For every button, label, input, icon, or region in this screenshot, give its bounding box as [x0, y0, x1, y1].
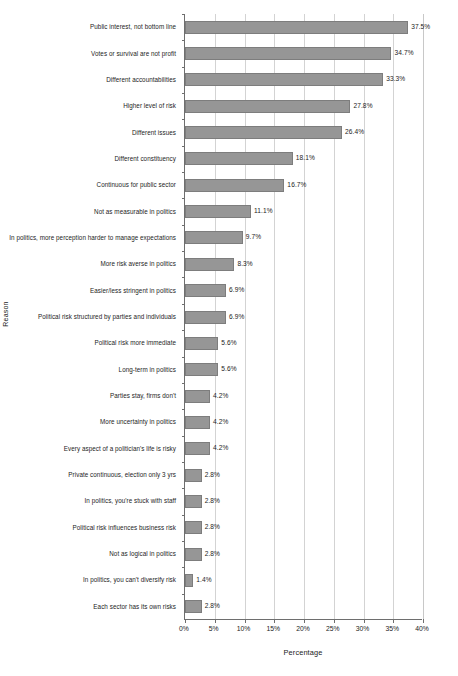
- x-axis-tick-mark: [245, 619, 246, 623]
- bar: [185, 390, 210, 403]
- category-label: Higher level of risk: [0, 102, 176, 110]
- bar: [185, 258, 234, 271]
- bar: [185, 416, 210, 429]
- bar: [185, 152, 293, 165]
- bar-value-label: 34.7%: [394, 49, 413, 57]
- category-label: Votes or survival are not profit: [0, 50, 176, 58]
- category-label: Not as logical in politics: [0, 550, 176, 558]
- y-axis-tick-mark: [182, 93, 185, 94]
- x-axis-tick-mark: [423, 619, 424, 623]
- bar-value-label: 2.8%: [205, 523, 220, 531]
- category-label: Public interest, not bottom line: [0, 23, 176, 31]
- bar-value-label: 6.9%: [229, 313, 244, 321]
- chart-title: [140, 0, 340, 9]
- category-label: In politics, you can't diversify risk: [0, 576, 176, 584]
- gridline: [423, 14, 424, 619]
- plot-area: 37.5%34.7%33.3%27.8%26.4%18.1%16.7%11.1%…: [184, 14, 422, 620]
- bar: [185, 205, 251, 218]
- category-label: More uncertainty in politics: [0, 418, 176, 426]
- bar: [185, 363, 218, 376]
- category-label: Long-term in politics: [0, 366, 176, 374]
- category-label: Each sector has its own risks: [0, 603, 176, 611]
- y-axis-tick-mark: [182, 172, 185, 173]
- bar: [185, 21, 408, 34]
- category-label: Easier/less stringent in politics: [0, 287, 176, 295]
- y-axis-tick-mark: [182, 462, 185, 463]
- y-axis-tick-mark: [182, 67, 185, 68]
- x-axis-tick-mark: [393, 619, 394, 623]
- x-axis-tick-mark: [304, 619, 305, 623]
- category-label: More risk averse in politics: [0, 260, 176, 268]
- bar: [185, 574, 193, 587]
- bar: [185, 284, 226, 297]
- category-label: Different accountabilities: [0, 76, 176, 84]
- bar-value-label: 1.4%: [196, 576, 211, 584]
- y-axis-tick-mark: [182, 515, 185, 516]
- bar: [185, 179, 284, 192]
- bar: [185, 600, 202, 613]
- category-label: Not as measurable in politics: [0, 208, 176, 216]
- category-label: In politics, more perception harder to m…: [0, 234, 176, 242]
- bar: [185, 469, 202, 482]
- bar-value-label: 9.7%: [246, 233, 261, 241]
- y-axis-tick-mark: [182, 14, 185, 15]
- bar-value-label: 16.7%: [287, 181, 306, 189]
- y-axis-tick-mark: [182, 383, 185, 384]
- y-axis-tick-mark: [182, 40, 185, 41]
- bar-chart: Reason Public interest, not bottom lineV…: [0, 0, 458, 676]
- category-label: Private continuous, election only 3 yrs: [0, 471, 176, 479]
- bar-value-label: 6.9%: [229, 286, 244, 294]
- x-axis-title: Percentage: [184, 648, 422, 657]
- y-axis-tick-mark: [182, 198, 185, 199]
- bar: [185, 47, 391, 60]
- x-axis-tick-mark: [185, 619, 186, 623]
- x-axis-tick-mark: [334, 619, 335, 623]
- category-label: Political risk structured by parties and…: [0, 313, 176, 321]
- y-axis-tick-mark: [182, 541, 185, 542]
- x-axis-tick-labels: 0%5%10%15%20%25%30%35%40%: [184, 625, 422, 637]
- bar-value-label: 8.3%: [237, 260, 252, 268]
- bar-value-label: 2.8%: [205, 471, 220, 479]
- x-axis-tick-mark: [215, 619, 216, 623]
- bar-value-label: 2.8%: [205, 497, 220, 505]
- y-axis-tick-mark: [182, 594, 185, 595]
- y-axis-tick-mark: [182, 225, 185, 226]
- category-label: Continuous for public sector: [0, 181, 176, 189]
- category-label-column: Public interest, not bottom lineVotes or…: [0, 14, 180, 620]
- bar-value-label: 2.8%: [205, 550, 220, 558]
- y-axis-tick-mark: [182, 304, 185, 305]
- category-label: Every aspect of a politician's life is r…: [0, 445, 176, 453]
- bar-value-label: 33.3%: [386, 75, 405, 83]
- y-axis-tick-mark: [182, 357, 185, 358]
- bar-value-label: 27.8%: [353, 102, 372, 110]
- bar: [185, 231, 243, 244]
- bar-value-label: 11.1%: [254, 207, 273, 215]
- x-axis-tick-mark: [364, 619, 365, 623]
- bar: [185, 337, 218, 350]
- x-axis-tick-mark: [274, 619, 275, 623]
- x-axis-tick-label: 40%: [402, 625, 442, 632]
- y-axis-tick-mark: [182, 567, 185, 568]
- bar: [185, 100, 350, 113]
- gridline: [393, 14, 394, 619]
- bar-value-label: 5.6%: [221, 365, 236, 373]
- y-axis-tick-mark: [182, 251, 185, 252]
- bar-value-label: 37.5%: [411, 23, 430, 31]
- bar-value-label: 4.2%: [213, 392, 228, 400]
- y-axis-tick-mark: [182, 409, 185, 410]
- category-label: Different constituency: [0, 155, 176, 163]
- bar-value-label: 18.1%: [296, 154, 315, 162]
- bar: [185, 548, 202, 561]
- category-label: Political risk more immediate: [0, 339, 176, 347]
- bar: [185, 126, 342, 139]
- y-axis-tick-mark: [182, 330, 185, 331]
- bar: [185, 311, 226, 324]
- y-axis-tick-mark: [182, 277, 185, 278]
- category-label: In politics, you're stuck with staff: [0, 497, 176, 505]
- category-label: Different issues: [0, 129, 176, 137]
- y-axis-tick-mark: [182, 146, 185, 147]
- bar: [185, 521, 202, 534]
- bar: [185, 73, 383, 86]
- y-axis-tick-mark: [182, 436, 185, 437]
- bar: [185, 442, 210, 455]
